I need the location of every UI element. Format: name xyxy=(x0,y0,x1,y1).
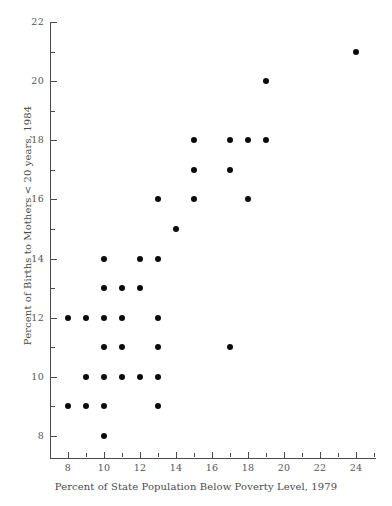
data-point xyxy=(155,374,161,380)
x-tick-major xyxy=(356,452,357,458)
data-point xyxy=(191,167,197,173)
x-tick-label: 8 xyxy=(57,463,79,473)
x-tick-label: 12 xyxy=(129,463,151,473)
x-tick-major xyxy=(140,452,141,458)
data-point xyxy=(227,167,233,173)
x-tick-minor xyxy=(266,453,267,457)
y-tick-minor xyxy=(51,111,55,112)
y-tick-minor xyxy=(51,347,55,348)
data-point xyxy=(101,403,107,409)
y-tick-label: 10 xyxy=(14,372,44,382)
data-point xyxy=(137,256,143,262)
x-tick-minor xyxy=(338,453,339,457)
y-tick-label: 22 xyxy=(14,17,44,27)
data-point xyxy=(227,344,233,350)
data-point xyxy=(173,226,179,232)
x-tick-minor xyxy=(158,453,159,457)
data-point xyxy=(353,49,359,55)
data-point xyxy=(65,315,71,321)
x-tick-major xyxy=(104,452,105,458)
data-point xyxy=(227,137,233,143)
x-tick-minor xyxy=(194,453,195,457)
data-point xyxy=(155,344,161,350)
plot-area: 810121416182022 81012141618202224 Percen… xyxy=(0,0,392,506)
data-point xyxy=(119,285,125,291)
data-point xyxy=(101,285,107,291)
x-tick-label: 10 xyxy=(93,463,115,473)
data-point xyxy=(245,196,251,202)
x-tick-label: 22 xyxy=(309,463,331,473)
data-point xyxy=(119,344,125,350)
data-point xyxy=(83,403,89,409)
data-point xyxy=(83,315,89,321)
data-point xyxy=(137,285,143,291)
y-tick-major xyxy=(51,199,57,200)
data-point xyxy=(245,137,251,143)
x-tick-major xyxy=(284,452,285,458)
scatter-plot-figure: 810121416182022 81012141618202224 Percen… xyxy=(0,0,392,506)
data-point xyxy=(263,137,269,143)
data-point xyxy=(191,196,197,202)
data-point xyxy=(155,196,161,202)
y-tick-major xyxy=(51,140,57,141)
y-tick-label: 20 xyxy=(14,76,44,86)
data-point xyxy=(119,374,125,380)
x-tick-label: 16 xyxy=(201,463,223,473)
y-tick-minor xyxy=(51,52,55,53)
x-axis-title: Percent of State Population Below Povert… xyxy=(0,481,392,492)
y-tick-major xyxy=(51,318,57,319)
y-tick-major xyxy=(51,22,57,23)
x-tick-major xyxy=(248,452,249,458)
y-tick-label: 8 xyxy=(14,431,44,441)
x-tick-major xyxy=(68,452,69,458)
x-tick-minor xyxy=(122,453,123,457)
data-point xyxy=(119,315,125,321)
data-point xyxy=(101,256,107,262)
y-axis-title: Percent of Births to Mothers < 20 years,… xyxy=(22,96,33,356)
data-point xyxy=(155,315,161,321)
data-point xyxy=(101,374,107,380)
y-tick-major xyxy=(51,259,57,260)
x-tick-label: 24 xyxy=(345,463,367,473)
y-tick-minor xyxy=(51,406,55,407)
data-point xyxy=(191,137,197,143)
data-point xyxy=(83,374,89,380)
data-point xyxy=(101,315,107,321)
y-tick-major xyxy=(51,81,57,82)
data-point xyxy=(101,433,107,439)
y-tick-minor xyxy=(51,170,55,171)
x-tick-label: 18 xyxy=(237,463,259,473)
x-tick-major xyxy=(320,452,321,458)
x-tick-label: 20 xyxy=(273,463,295,473)
x-tick-minor xyxy=(374,453,375,457)
y-axis-line xyxy=(50,22,51,459)
y-tick-major xyxy=(51,377,57,378)
x-tick-minor xyxy=(302,453,303,457)
data-point xyxy=(137,374,143,380)
x-tick-minor xyxy=(86,453,87,457)
data-point xyxy=(65,403,71,409)
data-point xyxy=(101,344,107,350)
y-tick-minor xyxy=(51,229,55,230)
x-tick-major xyxy=(212,452,213,458)
data-point xyxy=(263,78,269,84)
x-tick-label: 14 xyxy=(165,463,187,473)
x-tick-major xyxy=(176,452,177,458)
data-point xyxy=(155,403,161,409)
y-tick-minor xyxy=(51,288,55,289)
x-tick-minor xyxy=(230,453,231,457)
data-point xyxy=(155,256,161,262)
x-axis-line xyxy=(50,458,376,459)
y-tick-major xyxy=(51,436,57,437)
